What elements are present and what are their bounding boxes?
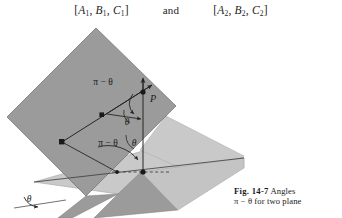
caption-line2: π − θ for two plane [234,196,342,206]
label-upper-theta: θ [125,117,130,127]
conjunction-and: and [163,4,179,16]
caption-figure-number: Fig. 14-7 [234,186,269,196]
bottom-left-edge-line [14,200,66,208]
caption-line1-rest: Angles [270,186,295,196]
two-planes-diagram: π − θ P θ θ π − θ θ [0,22,245,218]
figure-illustration: π − θ P θ θ π − θ θ [0,22,245,218]
label-mid-theta: θ [132,138,137,148]
label-lower-supplement: π − θ [98,138,118,148]
figure-caption: Fig. 14-7 Angles π − θ for two plane [234,186,342,206]
label-bottom-theta: θ [27,194,32,204]
label-upper-supplement: π − θ [93,77,113,87]
formula-line: [A1, B1, C1] and [A2, B2, C2] [0,0,342,20]
slant-node-marker [99,112,104,117]
vector-set-1: [A1, B1, C1] [74,4,129,16]
vector-set-2: [A2, B2, C2] [213,4,268,16]
label-point-P: P [149,93,156,104]
left-node-marker [59,139,64,144]
base-point-marker [140,169,145,174]
point-P-marker [140,89,145,94]
base-left-marker [115,170,119,174]
